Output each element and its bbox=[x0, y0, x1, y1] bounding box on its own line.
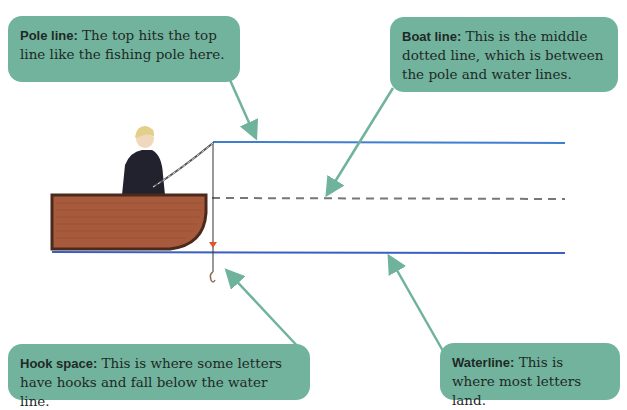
bobber-icon bbox=[209, 242, 217, 248]
boat-line-arrow bbox=[328, 88, 393, 193]
hook-space-arrow bbox=[228, 272, 302, 351]
waterline-arrow bbox=[390, 258, 443, 351]
pole-line-callout: Pole line: The top hits the top line lik… bbox=[8, 16, 240, 82]
waterline-term: Waterline: bbox=[452, 355, 514, 370]
water-line bbox=[52, 252, 565, 253]
hook-space-term: Hook space: bbox=[20, 356, 97, 371]
waterline-callout: Waterline: This is where most letters la… bbox=[440, 343, 620, 400]
boat-line bbox=[212, 198, 565, 199]
fisherman-illustration bbox=[122, 126, 213, 195]
boat-line-term: Boat line: bbox=[402, 29, 461, 44]
pole-line-arrow bbox=[230, 80, 255, 136]
hook-icon bbox=[210, 272, 215, 282]
pole-line-term: Pole line: bbox=[20, 28, 78, 43]
pole-line bbox=[213, 142, 565, 143]
hook-space-callout: Hook space: This is where some letters h… bbox=[8, 344, 310, 400]
boat-line-callout: Boat line: This is the middle dotted lin… bbox=[390, 17, 618, 92]
